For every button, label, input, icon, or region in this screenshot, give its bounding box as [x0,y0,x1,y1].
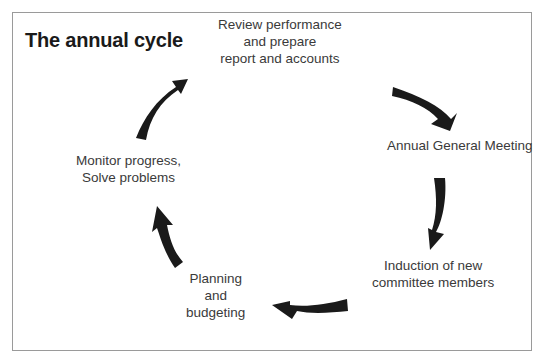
cycle-arrows [0,0,536,353]
arrow-induction-to-planning-icon [272,299,348,319]
arrow-planning-to-monitor-icon [152,206,183,268]
arrow-monitor-to-review-icon [136,79,188,140]
arrow-agm-to-induction-icon [428,178,445,250]
arrow-review-to-agm-icon [392,87,457,131]
